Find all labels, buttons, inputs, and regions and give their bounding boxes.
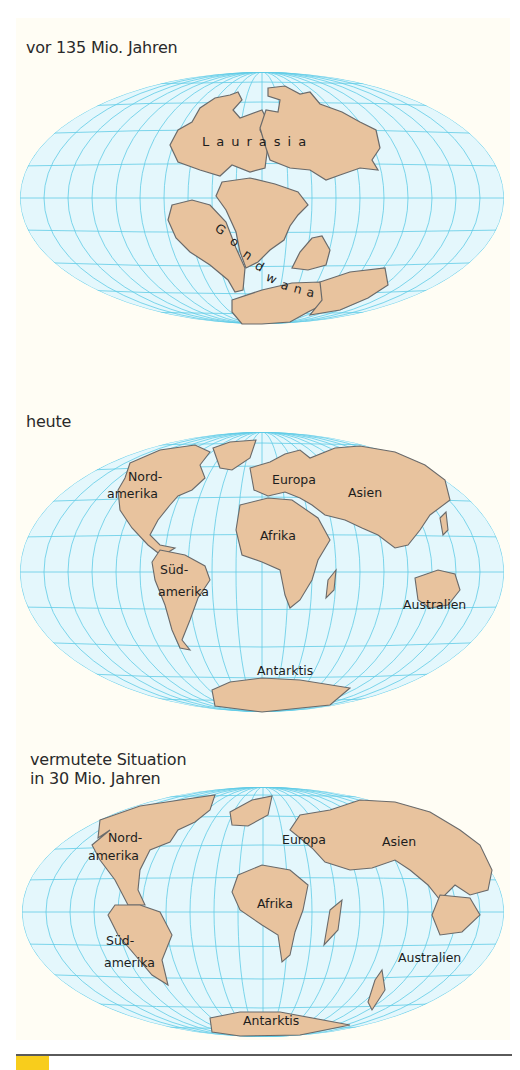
label-afrika: Afrika — [257, 896, 293, 911]
caption-future-line1: vermutete Situation — [30, 750, 186, 769]
label-antarktis: Antarktis — [257, 663, 313, 678]
label-nordamerika-2: amerika — [88, 848, 139, 863]
label-suedamerika-2: amerika — [158, 584, 209, 599]
label-suedamerika-1: Süd- — [160, 562, 188, 577]
label-antarktis: Antarktis — [243, 1013, 299, 1028]
label-laurasia: Laurasia — [202, 134, 313, 149]
label-asien: Asien — [382, 834, 416, 849]
label-nordamerika-1: Nord- — [128, 469, 162, 484]
label-nordamerika-1: Nord- — [108, 830, 142, 845]
label-suedamerika-1: Süd- — [106, 933, 134, 948]
yellow-page-tag — [16, 1056, 49, 1070]
label-afrika: Afrika — [260, 528, 296, 543]
map-today: Nord- amerika Süd- amerika Europa Asien … — [0, 420, 520, 720]
map-135-million-years-ago: Laurasia G o n d w a n a — [0, 0, 520, 340]
footer-divider — [16, 1054, 512, 1056]
label-australien: Australien — [403, 597, 466, 612]
label-suedamerika-2: amerika — [104, 955, 155, 970]
label-europa: Europa — [282, 832, 326, 847]
map-in-30-million-years: Nord- amerika Süd- amerika Europa Asien … — [0, 780, 520, 1040]
label-asien: Asien — [348, 485, 382, 500]
label-europa: Europa — [272, 472, 316, 487]
label-nordamerika-2: amerika — [107, 486, 158, 501]
label-australien: Australien — [398, 950, 461, 965]
